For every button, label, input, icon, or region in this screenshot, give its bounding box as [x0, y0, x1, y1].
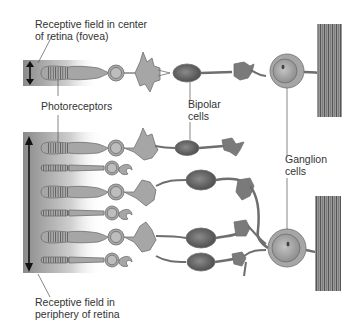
label-line: cells — [188, 110, 221, 122]
label-line: cells — [285, 165, 327, 177]
label-fovea-field: Receptive field in center of retina (fov… — [35, 18, 147, 42]
label-line: Ganglion — [285, 153, 327, 165]
label-line: of retina (fovea) — [35, 30, 147, 42]
label-photoreceptors: Photoreceptors — [41, 100, 112, 112]
retina-receptive-field-diagram: Receptive field in center of retina (fov… — [0, 0, 359, 333]
label-line: periphery of retina — [35, 308, 120, 320]
periphery-ganglion-cell — [268, 229, 322, 267]
label-bipolar-cells: Bipolar cells — [188, 98, 221, 122]
optic-nerve-fibers-bottom — [315, 196, 341, 291]
label-ganglion-cells: Ganglion cells — [285, 153, 327, 177]
label-line: Receptive field in center — [35, 18, 147, 30]
label-periphery-field: Receptive field in periphery of retina — [35, 296, 120, 320]
label-line: Bipolar — [188, 98, 221, 110]
optic-nerve-fibers-top — [317, 24, 342, 117]
label-line: Receptive field in — [35, 296, 120, 308]
periphery-bipolar-cells — [155, 138, 268, 276]
